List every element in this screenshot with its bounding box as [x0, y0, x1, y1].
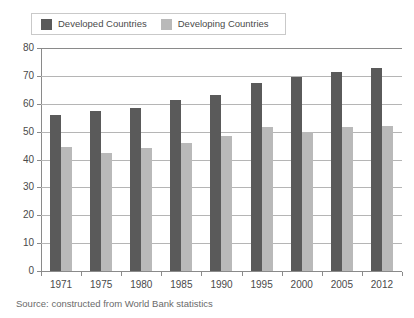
- x-axis-tick-label: 1990: [210, 280, 232, 290]
- y-axis-tick-label: 0: [28, 266, 34, 276]
- bar-group: [282, 48, 322, 271]
- bar[interactable]: [90, 111, 101, 271]
- bar-group: [161, 48, 201, 271]
- bar[interactable]: [170, 100, 181, 271]
- x-axis-tick-label: 1985: [170, 280, 192, 290]
- y-axis-tick-label: 70: [23, 71, 34, 81]
- bar-group: [41, 48, 81, 271]
- y-axis-tick-label: 30: [23, 182, 34, 192]
- legend-swatch-developing-icon: [161, 19, 172, 30]
- bar[interactable]: [141, 148, 152, 271]
- bar[interactable]: [262, 127, 273, 271]
- x-axis-tick-label: 2012: [371, 280, 393, 290]
- bar-group: [81, 48, 121, 271]
- bar[interactable]: [210, 95, 221, 271]
- x-tick-mark: [41, 272, 42, 276]
- bar[interactable]: [61, 147, 72, 271]
- bar[interactable]: [221, 136, 232, 271]
- bar[interactable]: [371, 68, 382, 271]
- x-axis-tick-label: 2005: [331, 280, 353, 290]
- bar[interactable]: [302, 132, 313, 271]
- bar-group: [201, 48, 241, 271]
- legend-label: Developed Countries: [58, 19, 147, 29]
- bar[interactable]: [291, 77, 302, 271]
- x-tick-mark: [242, 272, 243, 276]
- y-axis-tick-label: 40: [23, 155, 34, 165]
- x-axis-tick-label: 2000: [291, 280, 313, 290]
- y-axis-tick-label: 50: [23, 127, 34, 137]
- bar[interactable]: [101, 153, 112, 271]
- x-axis-tick-label: 1975: [90, 280, 112, 290]
- x-tick-mark: [282, 272, 283, 276]
- bar[interactable]: [382, 126, 393, 271]
- plot-area: 01020304050607080 1971197519801985199019…: [41, 48, 402, 272]
- bar-group: [242, 48, 282, 271]
- bar[interactable]: [342, 127, 353, 271]
- bar[interactable]: [130, 108, 141, 271]
- legend-entry[interactable]: Developing Countries: [161, 19, 276, 30]
- y-axis-tick-label: 80: [23, 43, 34, 53]
- x-tick-mark: [322, 272, 323, 276]
- x-tick-mark: [161, 272, 162, 276]
- x-tick-mark: [402, 272, 403, 276]
- legend-label: Developing Countries: [178, 19, 269, 29]
- x-axis-tick-label: 1971: [50, 280, 72, 290]
- x-axis-line: [41, 271, 402, 272]
- x-axis-tick-label: 1980: [130, 280, 152, 290]
- bar[interactable]: [181, 143, 192, 271]
- source-note: Source: constructed from World Bank stat…: [16, 299, 213, 309]
- x-tick-mark: [81, 272, 82, 276]
- x-tick-mark: [121, 272, 122, 276]
- bar-group: [121, 48, 161, 271]
- x-tick-mark: [201, 272, 202, 276]
- x-tick-mark: [362, 272, 363, 276]
- y-axis-tick-label: 60: [23, 99, 34, 109]
- bar[interactable]: [50, 115, 61, 271]
- y-axis-tick-label: 10: [23, 238, 34, 248]
- chart-legend: Developed CountriesDeveloping Countries: [31, 13, 286, 35]
- legend-entry[interactable]: Developed Countries: [41, 19, 154, 30]
- y-axis-tick-label: 20: [23, 210, 34, 220]
- bar-group: [322, 48, 362, 271]
- bar-group: [362, 48, 402, 271]
- bar-chart-figure: Developed CountriesDeveloping Countries …: [0, 0, 414, 318]
- x-axis-tick-label: 1995: [250, 280, 272, 290]
- bar[interactable]: [331, 72, 342, 271]
- legend-swatch-developed-icon: [41, 19, 52, 30]
- bar[interactable]: [251, 83, 262, 271]
